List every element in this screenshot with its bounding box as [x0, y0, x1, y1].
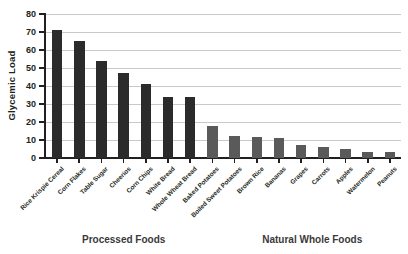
bar [118, 73, 129, 158]
y-tick-mark [39, 85, 46, 87]
bar [185, 97, 196, 158]
bar [52, 30, 63, 158]
bar [340, 149, 351, 158]
x-category-label: Grapes [289, 165, 310, 186]
x-category-label: Peanuts [375, 165, 398, 188]
y-tick-mark [39, 31, 46, 33]
bar [163, 97, 174, 158]
bar [229, 136, 240, 158]
y-tick-label: 50 [16, 63, 36, 73]
y-tick-mark [39, 103, 46, 105]
y-tick-label: 0 [16, 153, 36, 163]
group-label: Processed Foods [82, 234, 165, 245]
y-tick-label: 40 [16, 81, 36, 91]
bar [274, 138, 285, 158]
x-category-label: Bananas [263, 165, 287, 189]
y-tick-label: 20 [16, 117, 36, 127]
y-tick-mark [39, 67, 46, 69]
bar [96, 61, 107, 158]
y-tick-mark [39, 139, 46, 141]
y-tick-label: 60 [16, 45, 36, 55]
y-tick-label: 10 [16, 135, 36, 145]
bar [141, 84, 152, 158]
y-tick-label: 30 [16, 99, 36, 109]
bar [252, 137, 263, 158]
group-label: Natural Whole Foods [262, 234, 362, 245]
y-tick-mark [39, 157, 46, 159]
y-tick-mark [39, 13, 46, 15]
bar [296, 145, 307, 158]
y-tick-label: 70 [16, 27, 36, 37]
y-tick-mark [39, 49, 46, 51]
bar [318, 147, 329, 158]
y-tick-mark [39, 121, 46, 123]
plot-area [46, 14, 401, 158]
bar [362, 152, 373, 158]
x-category-label: Carrots [310, 165, 331, 186]
bar [207, 126, 218, 158]
y-tick-label: 80 [16, 9, 36, 19]
y-axis-title-label: Glycemic Load [6, 50, 17, 120]
bar [385, 152, 396, 158]
x-category-label: Apples [333, 165, 353, 185]
glycemic-load-bar-chart: Glycemic Load 01020304050607080 Rice Kri… [0, 0, 408, 254]
bar [74, 41, 85, 158]
